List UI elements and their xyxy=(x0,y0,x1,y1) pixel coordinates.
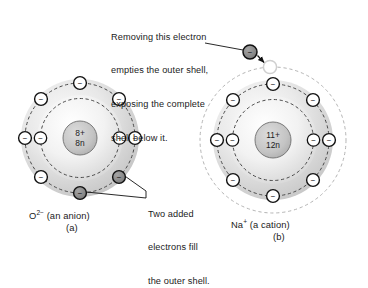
electron-glyph: − xyxy=(271,80,276,89)
electron: − xyxy=(307,174,320,187)
electron: − xyxy=(35,171,48,184)
callout-line: shell below it. xyxy=(111,133,208,144)
electron-glyph: − xyxy=(327,136,332,145)
oxide-anion-label: O2− (an anion) xyxy=(29,207,90,221)
sodium-note: (a cation) xyxy=(250,219,290,230)
electron: − xyxy=(35,93,48,106)
electron-glyph: − xyxy=(117,173,122,182)
electron: − xyxy=(226,134,238,146)
electron: − xyxy=(267,190,280,203)
oxide-charge: 2− xyxy=(36,209,44,216)
removal-arrow xyxy=(258,56,265,63)
removing-electron-callout: Removing this electron empties the outer… xyxy=(111,9,208,167)
electron-glyph: − xyxy=(248,48,253,57)
sodium-symbol: Na xyxy=(231,219,243,230)
electron-glyph: − xyxy=(271,192,276,201)
sodium-charge: + xyxy=(243,218,247,225)
electron: − xyxy=(267,78,280,91)
electron: − xyxy=(34,132,46,144)
electron-glyph: − xyxy=(23,134,28,143)
callout-line: empties the outer shell, xyxy=(111,65,208,76)
removing-electron-leader-line xyxy=(205,43,243,50)
electron-glyph: − xyxy=(38,134,43,143)
panel-b-letter: (b) xyxy=(273,231,285,242)
sodium-neutron-count: 12n xyxy=(266,140,280,150)
electron-glyph: − xyxy=(78,79,83,88)
callout-line: electrons fill xyxy=(148,242,210,253)
electron: − xyxy=(19,132,32,145)
sodium-nucleus: 11+ 12n xyxy=(255,122,291,158)
callout-line: Two added xyxy=(148,209,210,220)
added-electron: − xyxy=(74,187,87,200)
oxide-neutron-count: 8n xyxy=(75,138,85,148)
oxide-note: (an anion) xyxy=(47,210,90,221)
sodium-cation-panel: 11+ 12n − − − xyxy=(200,43,346,213)
electron-glyph: − xyxy=(39,95,44,104)
callout-line: the outer shell. xyxy=(148,276,210,287)
electron-glyph: − xyxy=(311,96,316,105)
oxide-proton-count: 8+ xyxy=(75,128,85,138)
electron: − xyxy=(74,77,87,90)
electron-glyph: − xyxy=(231,96,236,105)
sodium-proton-count: 11+ xyxy=(266,130,280,140)
two-added-electrons-callout: Two added electrons fill the outer shell… xyxy=(148,186,210,288)
electron: − xyxy=(323,134,336,147)
electron-glyph: − xyxy=(231,176,236,185)
callout-line: Removing this electron xyxy=(111,32,208,43)
electron: − xyxy=(307,94,320,107)
electron: − xyxy=(227,94,240,107)
outer-shell-vacancy xyxy=(263,60,276,73)
electron: − xyxy=(307,134,319,146)
added-electron: − xyxy=(113,171,126,184)
electron-glyph: − xyxy=(215,136,220,145)
electron-glyph: − xyxy=(311,176,316,185)
removed-electron: − xyxy=(243,45,257,59)
oxide-nucleus: 8+ 8n xyxy=(63,121,97,155)
electron: − xyxy=(227,174,240,187)
electron-glyph: − xyxy=(230,136,235,145)
panel-a-letter: (a) xyxy=(66,222,78,233)
sodium-cation-label: Na+ (a cation) xyxy=(231,216,290,230)
electron: − xyxy=(211,134,224,147)
electron-glyph: − xyxy=(39,173,44,182)
electron-glyph: − xyxy=(311,136,316,145)
callout-line: exposing the complete xyxy=(111,99,208,110)
electron-glyph: − xyxy=(78,189,83,198)
